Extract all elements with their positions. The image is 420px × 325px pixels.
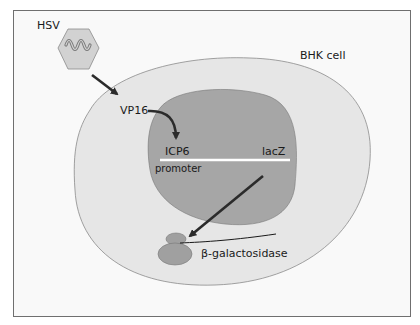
label-hsv: HSV	[37, 20, 60, 31]
hsv-virus-icon	[58, 29, 99, 69]
hsv-lacz-diagram	[0, 0, 420, 325]
label-lacz: lacZ	[262, 146, 285, 157]
label-beta-galactosidase: β-galactosidase	[201, 248, 288, 259]
label-vp16: VP16	[120, 105, 148, 116]
label-bhk-cell: BHK cell	[300, 50, 345, 61]
label-promoter: promoter	[155, 164, 201, 174]
label-icp6: ICP6	[165, 146, 190, 157]
protein-subunit-large	[158, 243, 192, 265]
arrow-hsv-to-vp16	[92, 75, 117, 94]
